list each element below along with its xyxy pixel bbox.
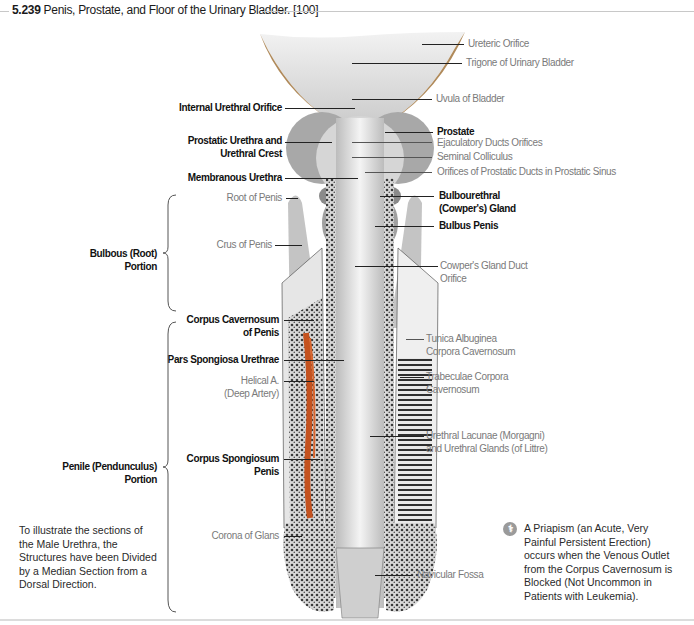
label-prostatic-ducts: Orifices of Prostatic Ducts in Prostatic… — [437, 166, 616, 179]
leader-line — [380, 196, 434, 197]
label-corpus-cavernosum: Corpus Cavernosum of Penis — [187, 314, 279, 339]
note-priapism: A Priapism (an Acute, Very Painful Persi… — [524, 522, 674, 603]
label-bulbourethral-gland: Bulbourethral (Cowper's) Gland — [439, 190, 516, 215]
leader-line — [286, 198, 298, 199]
leader-line — [284, 320, 314, 321]
leader-line — [352, 99, 432, 100]
leader-line — [285, 142, 332, 143]
figure-caption: 5.239 Penis, Prostate, and Floor of the … — [12, 3, 318, 17]
header-rule — [262, 11, 694, 12]
label-tunica-albuginea: Tunica Albuginea Corpora Cavernosum — [426, 333, 515, 358]
bracket-penile — [160, 320, 182, 615]
label-corpus-spongiosum: Corpus Spongiosum Penis — [187, 453, 279, 478]
label-corona-of-glans: Corona of Glans — [211, 530, 279, 543]
label-root-of-penis: Root of Penis — [227, 192, 282, 205]
leader-line — [284, 459, 320, 460]
label-seminal-colliculus: Seminal Colliculus — [437, 151, 512, 164]
note-urethra-sections: To illustrate the sections of the Male U… — [19, 524, 159, 592]
clinical-note-icon: ⚕ — [503, 522, 517, 536]
leader-line — [400, 377, 424, 378]
label-bulbus-penis: Bulbus Penis — [439, 220, 498, 233]
leader-line — [422, 44, 464, 45]
leader-line — [285, 178, 358, 179]
label-prostatic-urethra: Prostatic Urethra and Urethral Crest — [188, 135, 282, 160]
label-crus-of-penis: Crus of Penis — [217, 239, 272, 252]
leader-line — [385, 132, 433, 133]
label-internal-urethral-orifice: Internal Urethral Orifice — [179, 102, 282, 115]
label-bulbous-portion: Bulbous (Root) Portion — [90, 248, 157, 273]
label-helical-artery: Helical A. (Deep Artery) — [224, 375, 279, 400]
leader-line — [285, 108, 355, 109]
label-membranous-urethra: Membranous Urethra — [188, 172, 282, 185]
header-rule — [0, 11, 9, 12]
leader-line — [375, 575, 413, 576]
leader-line — [275, 245, 302, 246]
label-ejaculatory-ducts: Ejaculatory Ducts Orifices — [437, 137, 542, 150]
label-urethral-lacunae: Urethral Lacunae (Morgagni) and Urethral… — [426, 430, 547, 455]
figure-header: 5.239 Penis, Prostate, and Floor of the … — [0, 0, 694, 20]
label-cowpers-duct: Cowper's Gland Duct Orifice — [440, 260, 528, 285]
leader-line — [375, 226, 434, 227]
label-trabeculae: Trabeculae Corpora Cavernosum — [426, 371, 508, 396]
leader-line — [352, 63, 462, 64]
leader-line — [284, 381, 314, 382]
bottom-rule — [0, 619, 694, 621]
leader-line — [355, 266, 438, 267]
label-trigone: Trigone of Urinary Bladder — [466, 57, 574, 70]
label-ureteric-orifice: Ureteric Orifice — [468, 38, 529, 51]
leader-line — [365, 172, 432, 173]
anatomical-illustration — [250, 28, 470, 623]
bracket-bulbous — [160, 193, 182, 313]
label-pars-spongiosa: Pars Spongiosa Urethrae — [168, 354, 279, 367]
figure-number: 5.239 — [12, 3, 41, 17]
label-navicular-fossa: Navicular Fossa — [417, 569, 483, 582]
leader-line — [370, 436, 424, 437]
leader-line — [352, 157, 432, 158]
figure-title: Penis, Prostate, and Floor of the Urinar… — [44, 3, 319, 17]
leader-line — [406, 339, 424, 340]
leader-line — [284, 536, 302, 537]
leader-line — [352, 142, 432, 143]
label-uvula: Uvula of Bladder — [436, 93, 504, 106]
leader-line — [284, 360, 344, 361]
label-penile-portion: Penile (Pendunculus) Portion — [62, 461, 157, 486]
